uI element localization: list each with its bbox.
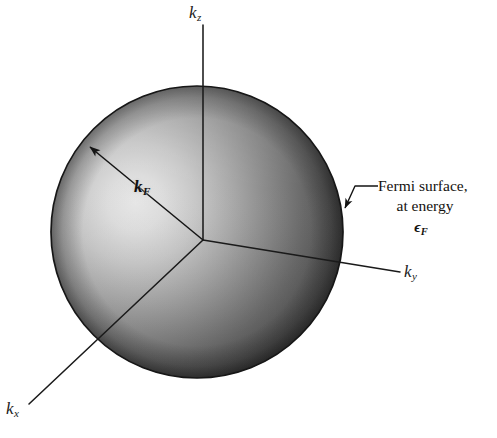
k-y-axis-label: ky: [404, 263, 416, 280]
fermi-surface-annotation: Fermi surface, at energy ϵF: [376, 176, 496, 236]
k-z-axis-label: kz: [189, 4, 201, 21]
fermi-sphere-figure: kz ky kx kF Fermi surface, at energy ϵF: [0, 0, 497, 438]
annotation-energy-symbol: ϵF: [376, 217, 496, 237]
k-F-radius-label: kF: [134, 178, 150, 195]
fermi-sphere-sheen: [51, 86, 343, 378]
annotation-line-1: Fermi surface,: [376, 176, 496, 196]
fermi-surface-leader-line: [345, 186, 378, 208]
annotation-line-2: at energy: [376, 196, 496, 216]
k-x-axis-label: kx: [6, 400, 18, 417]
sphere-group: [51, 86, 343, 378]
